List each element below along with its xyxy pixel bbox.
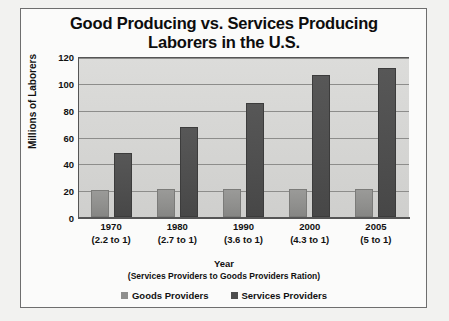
x-axis-labels: 1970(2.2 to 1)1980(2.7 to 1)1990(3.6 to … [78, 221, 409, 247]
x-axis-title: Year (Services Providers to Goods Provid… [30, 258, 418, 282]
chart-legend: Goods ProvidersServices Providers [30, 290, 418, 301]
bar-group [144, 57, 210, 217]
x-tick-label: 1990(3.6 to 1) [210, 221, 276, 247]
x-tick-label: 1980(2.7 to 1) [144, 221, 210, 247]
chart-page: Good Producing vs. Services Producing La… [0, 0, 449, 321]
legend-item: Goods Providers [121, 290, 209, 301]
x-tick-label: 1970(2.2 to 1) [78, 221, 144, 247]
y-tick-label: 20 [44, 186, 74, 197]
chart-title-line-2: Laborers in the U.S. [30, 33, 418, 52]
y-tick-label: 80 [44, 105, 74, 116]
x-tick-year: 1970 [78, 221, 144, 234]
bar-group [343, 57, 409, 217]
x-tick-ratio: (2.2 to 1) [78, 234, 144, 247]
x-tick-ratio: (3.6 to 1) [210, 234, 276, 247]
legend-label: Services Providers [242, 290, 328, 301]
y-axis-title: Millions of Laborers [27, 32, 38, 172]
x-tick-year: 1990 [210, 221, 276, 234]
x-tick-ratio: (2.7 to 1) [144, 234, 210, 247]
bar-services-providers [378, 68, 396, 217]
y-tick-label: 0 [44, 213, 74, 224]
chart-title: Good Producing vs. Services Producing La… [30, 14, 418, 53]
legend-swatch-icon [231, 292, 238, 299]
x-axis-title-main: Year [30, 258, 418, 271]
bar-group [210, 57, 276, 217]
x-axis-title-sub: (Services Providers to Goods Providers R… [30, 271, 418, 282]
y-tick-label: 120 [44, 52, 74, 63]
bar-goods-providers [223, 189, 241, 217]
chart-title-line-1: Good Producing vs. Services Producing [30, 14, 418, 33]
x-tick-year: 2005 [343, 221, 409, 234]
bar-goods-providers [157, 189, 175, 217]
bar-group [78, 57, 144, 217]
bar-goods-providers [289, 189, 307, 217]
x-tick-year: 2000 [277, 221, 343, 234]
y-tick-label: 40 [44, 159, 74, 170]
x-tick-ratio: (5 to 1) [343, 234, 409, 247]
x-tick-ratio: (4.3 to 1) [277, 234, 343, 247]
bar-groups [78, 57, 409, 217]
legend-swatch-icon [121, 292, 128, 299]
x-axis-line [78, 217, 410, 219]
bar-services-providers [312, 75, 330, 217]
legend-label: Goods Providers [132, 290, 209, 301]
bar-services-providers [180, 127, 198, 217]
y-tick-label: 100 [44, 78, 74, 89]
y-tick-label: 60 [44, 132, 74, 143]
legend-item: Services Providers [231, 290, 328, 301]
x-tick-label: 2000(4.3 to 1) [277, 221, 343, 247]
bar-services-providers [246, 103, 264, 217]
bar-services-providers [114, 153, 132, 217]
x-tick-year: 1980 [144, 221, 210, 234]
bar-goods-providers [355, 189, 373, 217]
bar-group [277, 57, 343, 217]
x-tick-label: 2005(5 to 1) [343, 221, 409, 247]
y-axis-ticks: 120100806040200 [40, 57, 74, 218]
bar-goods-providers [91, 190, 109, 217]
